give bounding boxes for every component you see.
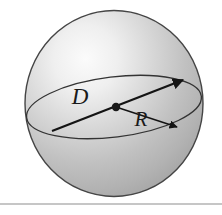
sphere-diagram-canvas: D R: [0, 0, 222, 215]
radius-label: R: [134, 107, 148, 131]
center-point: [112, 103, 120, 111]
diameter-label: D: [71, 84, 89, 109]
sphere-figure: D R: [0, 0, 222, 215]
